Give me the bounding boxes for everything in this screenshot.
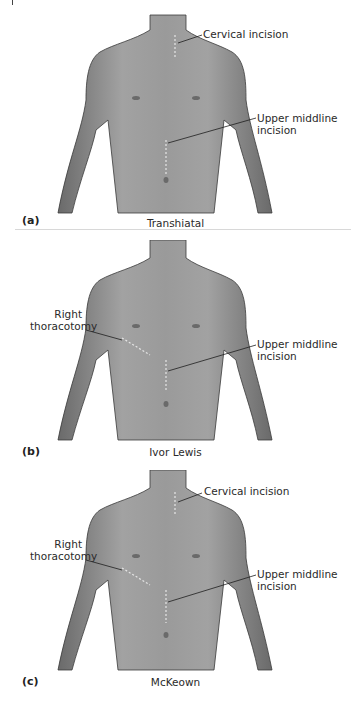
label-line1: Upper middline (257, 338, 338, 350)
label-cervical-incision: Cervical incision (203, 28, 288, 40)
panel-transhiatal: Cervical incision Upper middline incisio… (0, 0, 351, 235)
label-line1: Right (30, 538, 82, 550)
panel-divider (15, 229, 351, 230)
label-line2: incision (257, 580, 338, 592)
label-right-thoracotomy: Right thoracotomy (30, 538, 82, 562)
label-upper-midline-incision: Upper middline incision (257, 112, 338, 136)
torso-b (58, 240, 272, 440)
label-line1: Upper middline (257, 568, 338, 580)
torso-c (58, 470, 272, 670)
panel-caption-c: McKeown (0, 676, 351, 688)
panel-caption-a: Transhiatal (0, 217, 351, 229)
label-right-thoracotomy: Right thoracotomy (30, 308, 82, 332)
panel-ivor-lewis: Right thoracotomy Upper middline incisio… (0, 240, 351, 470)
label-line1: Right (30, 308, 82, 320)
label-line2: thoracotomy (30, 320, 82, 332)
label-cervical-incision: Cervical incision (204, 485, 289, 497)
label-upper-midline-incision: Upper middline incision (257, 338, 338, 362)
label-upper-midline-incision: Upper middline incision (257, 568, 338, 592)
label-line2: incision (257, 350, 338, 362)
label-line2: thoracotomy (30, 550, 82, 562)
label-line2: incision (257, 124, 338, 136)
panel-mckeown: Cervical incision Right thoracotomy Uppe… (0, 470, 351, 703)
panel-caption-b: Ivor Lewis (0, 446, 351, 458)
torso-a (58, 15, 272, 213)
label-line1: Upper middline (257, 112, 338, 124)
